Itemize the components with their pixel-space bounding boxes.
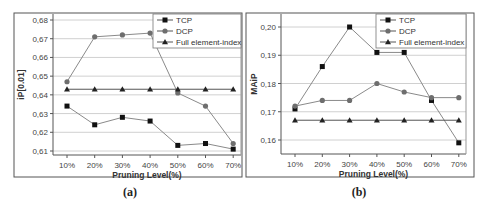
x-tick-label: 40%	[369, 160, 385, 169]
circle-marker-icon	[456, 95, 461, 100]
chart-b-caption: (b)	[339, 185, 379, 200]
circle-marker-icon	[292, 104, 297, 109]
y-tick-label: 0,18	[260, 80, 276, 89]
x-tick-label: 70%	[451, 160, 467, 169]
legend-label: DCP	[399, 27, 416, 36]
x-tick-label: 30%	[342, 160, 358, 169]
x-tick-label: 10%	[287, 160, 303, 169]
y-tick-label: 0,20	[260, 23, 276, 32]
chart-b: 0,160,170,180,190,2010%20%30%40%50%60%70…	[0, 0, 486, 211]
x-tick-label: 50%	[396, 160, 412, 169]
square-marker-icon	[456, 140, 461, 145]
y-axis-label: MAiP	[249, 73, 259, 95]
circle-marker-icon	[429, 95, 434, 100]
circle-marker-icon	[402, 89, 407, 94]
circle-marker-icon	[320, 98, 325, 103]
legend-label: TCP	[399, 16, 415, 25]
square-marker-icon	[402, 50, 407, 55]
legend-label: Full element-index	[399, 38, 464, 47]
circle-marker-icon	[347, 98, 352, 103]
x-tick-label: 60%	[423, 160, 439, 169]
square-marker-icon	[374, 50, 379, 55]
circle-marker-icon	[385, 28, 390, 33]
chart-a-caption: (a)	[110, 185, 150, 200]
y-tick-label: 0,16	[260, 136, 276, 145]
square-marker-icon	[386, 18, 391, 23]
x-axis-label: Pruning Level(%)	[339, 169, 409, 179]
circle-marker-icon	[374, 81, 379, 86]
y-tick-label: 0,17	[260, 108, 276, 117]
y-tick-label: 0,19	[260, 51, 276, 60]
square-marker-icon	[320, 64, 325, 69]
x-tick-label: 20%	[314, 160, 330, 169]
square-marker-icon	[347, 25, 352, 30]
